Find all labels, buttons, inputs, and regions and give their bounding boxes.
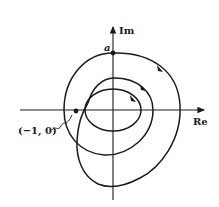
- point-a-label: a: [104, 42, 110, 53]
- critical-point-dot: [74, 109, 79, 114]
- nyquist-diagram: a (−1, 0) Im Re: [0, 0, 219, 207]
- real-axis-label: Re: [193, 116, 208, 127]
- point-a-dot: [111, 51, 116, 56]
- critical-point-label: (−1, 0): [18, 125, 57, 137]
- spiral-outer-loop: [77, 53, 180, 186]
- imaginary-axis-label: Im: [119, 25, 135, 36]
- spiral-outer-left-arc: [64, 53, 113, 155]
